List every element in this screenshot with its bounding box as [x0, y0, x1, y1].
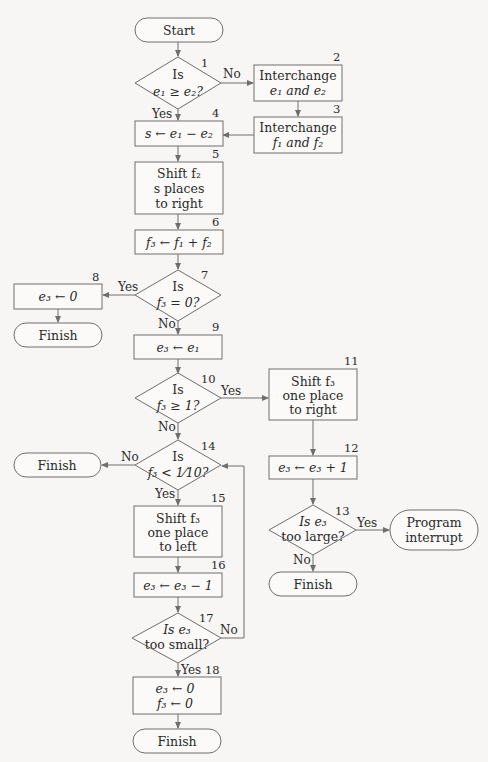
edge-label-no: No	[158, 317, 176, 331]
node-number: 5	[212, 147, 219, 161]
node-17-decision: 17 Is e₃ too small?	[132, 611, 221, 663]
node-finish-14: Finish	[14, 453, 101, 477]
node-text: e₃ ← e₃ + 1	[278, 460, 348, 475]
node-18-process: 18 e₃ ← 0 f₃ ← 0	[133, 663, 221, 714]
flowchart: Start 1 Is e₁ ≥ e₂? No Yes 2 Interchange…	[0, 0, 488, 762]
node-number: 2	[333, 50, 340, 64]
edge-label-no: No	[158, 420, 176, 434]
node-text: Finish	[37, 458, 76, 473]
node-number: 12	[344, 441, 359, 455]
node-number: 1	[201, 56, 208, 70]
node-number: 3	[333, 102, 340, 116]
node-text: Is	[172, 449, 183, 464]
node-text: Shift f₂	[157, 166, 201, 181]
node-text: f₃ < 1⁄10?	[147, 465, 209, 480]
edge-label-yes: Yes	[356, 516, 377, 530]
node-number: 6	[212, 215, 219, 229]
node-text: to right	[289, 402, 337, 417]
node-5-process: 5 Shift f₂ s places to right	[135, 147, 223, 214]
node-16-process: 16 e₃ ← e₃ − 1	[134, 558, 226, 597]
node-text: Is	[172, 279, 183, 294]
node-text: f₃ ≥ 1?	[156, 398, 200, 413]
node-text: Is	[172, 67, 183, 82]
node-text: Shift f₃	[156, 511, 200, 526]
node-text: to left	[159, 539, 197, 554]
node-text: f₁ and f₂	[272, 135, 324, 150]
node-6-process: 6 f₃ ← f₁ + f₂	[135, 215, 223, 254]
node-2-process: 2 Interchange e₁ and e₂	[254, 50, 342, 101]
node-8-process: 8 e₃ ← 0	[14, 270, 102, 309]
node-text: f₃ ← f₁ + f₂	[145, 235, 212, 250]
node-text: e₃ ← 0	[156, 681, 195, 696]
node-finish-13: Finish	[269, 572, 357, 596]
node-text: e₁ and e₂	[270, 83, 326, 98]
node-text: Finish	[293, 577, 332, 592]
node-finish-8: Finish	[14, 323, 102, 347]
edge-label-no: No	[220, 623, 238, 637]
node-text: Finish	[157, 734, 196, 749]
node-number: 8	[92, 270, 99, 284]
node-text: Is e₃	[162, 622, 191, 637]
node-text: s ← e₁ − e₂	[145, 126, 213, 141]
node-start: Start	[135, 18, 223, 42]
node-finish-18: Finish	[133, 729, 221, 753]
node-number: 10	[201, 372, 216, 386]
node-text: one place	[283, 388, 344, 403]
node-number: 9	[212, 320, 219, 334]
node-text: Start	[163, 23, 195, 38]
node-text: e₃ ← e₁	[156, 340, 199, 355]
node-number: 13	[335, 504, 350, 518]
node-text: e₃ ← e₃ − 1	[143, 578, 213, 593]
node-number: 7	[201, 268, 208, 282]
node-7-decision: 7 Is f₃ = 0?	[135, 268, 221, 321]
node-text: too small?	[145, 637, 210, 652]
node-text: Interchange	[259, 68, 336, 83]
node-text: f₃ ← 0	[156, 696, 193, 711]
edge-label-no: No	[223, 67, 241, 81]
node-text: too large?	[281, 529, 345, 544]
node-text: Shift f₃	[291, 374, 335, 389]
node-number: 14	[201, 439, 216, 453]
edge-label-yes: Yes	[117, 280, 138, 294]
node-14-decision: 14 Is f₃ < 1⁄10?	[135, 439, 221, 490]
node-number: 15	[211, 491, 226, 505]
node-number: 18	[205, 663, 220, 677]
edge-label-no: No	[293, 553, 311, 567]
edge-label-yes: Yes	[151, 107, 172, 121]
node-10-decision: 10 Is f₃ ≥ 1?	[135, 372, 221, 423]
node-text: e₁ ≥ e₂?	[153, 84, 203, 99]
node-number: 4	[212, 106, 219, 120]
node-text: interrupt	[405, 530, 463, 545]
node-text: Finish	[38, 328, 77, 343]
node-text: Is	[172, 382, 183, 397]
node-number: 11	[344, 354, 359, 368]
node-program-interrupt: Program interrupt	[390, 510, 478, 550]
edge-label-no: No	[121, 450, 139, 464]
node-number: 17	[199, 611, 214, 625]
node-4-process: 4 s ← e₁ − e₂	[135, 106, 223, 146]
edge-label-yes: Yes	[180, 663, 201, 677]
node-15-process: 15 Shift f₃ one place to left	[134, 491, 226, 557]
node-number: 16	[211, 558, 226, 572]
node-text: to right	[155, 196, 203, 211]
node-13-decision: 13 Is e₃ too large?	[269, 504, 356, 555]
node-12-process: 12 e₃ ← e₃ + 1	[269, 441, 359, 479]
node-1-decision: 1 Is e₁ ≥ e₂?	[135, 56, 221, 109]
node-text: Program	[406, 515, 461, 530]
edge-label-yes: Yes	[154, 487, 175, 501]
node-11-process: 11 Shift f₃ one place to right	[269, 354, 359, 420]
node-text: e₃ ← 0	[39, 289, 78, 304]
edge-label-yes: Yes	[220, 384, 241, 398]
node-text: Is e₃	[298, 514, 327, 529]
node-text: s places	[154, 181, 205, 196]
node-text: one place	[148, 525, 209, 540]
node-text: f₃ = 0?	[156, 295, 200, 310]
node-text: Interchange	[259, 120, 336, 135]
